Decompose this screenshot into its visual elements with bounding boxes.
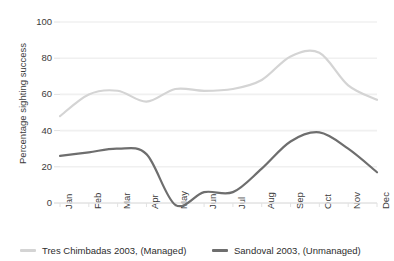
series-line-tres-chimbadas bbox=[60, 51, 377, 117]
legend-swatch-icon bbox=[212, 249, 228, 252]
legend-label: Tres Chimbadas 2003, (Managed) bbox=[42, 245, 186, 256]
chart-legend: Tres Chimbadas 2003, (Managed) Sandoval … bbox=[0, 240, 394, 261]
line-chart: Percentage sighting success 020406080100… bbox=[0, 0, 394, 261]
series-line-sandoval bbox=[60, 132, 377, 206]
legend-label: Sandoval 2003, (Unmanaged) bbox=[234, 245, 361, 256]
legend-item-sandoval[interactable]: Sandoval 2003, (Unmanaged) bbox=[212, 245, 361, 256]
plot-area bbox=[0, 0, 394, 261]
legend-divider bbox=[12, 240, 382, 241]
legend-swatch-icon bbox=[20, 249, 36, 252]
legend-item-tres-chimbadas[interactable]: Tres Chimbadas 2003, (Managed) bbox=[20, 245, 186, 256]
